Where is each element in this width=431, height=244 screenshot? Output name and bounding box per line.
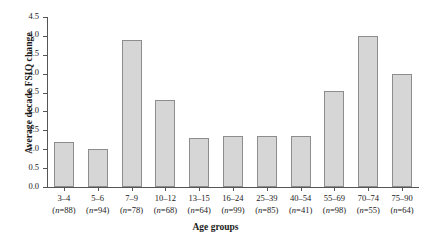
bar[interactable] — [122, 40, 142, 187]
bar-slot — [81, 17, 115, 187]
category-range: 13–15 — [182, 192, 216, 204]
x-axis-category-label: 5–6(n=94) — [81, 192, 115, 216]
x-tick-mark — [199, 187, 200, 191]
bar[interactable] — [291, 136, 311, 187]
category-sample-size: (n=99) — [216, 204, 250, 216]
x-axis-category-label: 10–12(n=68) — [148, 192, 182, 216]
bar[interactable] — [392, 74, 412, 187]
x-tick-mark — [233, 187, 234, 191]
y-tick: 4.5 — [3, 17, 47, 18]
x-axis-category-label: 75–90(n=64) — [385, 192, 419, 216]
category-range: 70–74 — [351, 192, 385, 204]
x-axis-category-label: 16–24(n=99) — [216, 192, 250, 216]
y-tick-label: 1.5 — [28, 124, 39, 134]
bar-slot — [182, 17, 216, 187]
y-tick: 2.5 — [3, 93, 47, 94]
y-tick: 1.0 — [3, 149, 47, 150]
bar-slot — [115, 17, 149, 187]
y-tick-label: 4.0 — [28, 29, 39, 39]
y-tick-label: 2.5 — [28, 86, 39, 96]
bar[interactable] — [155, 100, 175, 187]
x-axis-category-label: 13–15(n=64) — [182, 192, 216, 216]
bar-slot — [385, 17, 419, 187]
x-axis-category-label: 55–69(n=98) — [318, 192, 352, 216]
y-tick-label: 0.0 — [28, 181, 39, 191]
x-tick-mark — [368, 187, 369, 191]
category-sample-size: (n=55) — [351, 204, 385, 216]
bar[interactable] — [189, 138, 209, 187]
x-tick-mark — [267, 187, 268, 191]
category-range: 5–6 — [81, 192, 115, 204]
y-tick-label: 3.0 — [28, 67, 39, 77]
plot-area: 0.00.51.01.52.02.53.03.54.04.5 — [47, 17, 419, 187]
category-sample-size: (n=78) — [115, 204, 149, 216]
category-range: 75–90 — [385, 192, 419, 204]
x-axis-category-label: 25–39(n=85) — [250, 192, 284, 216]
x-tick-mark — [98, 187, 99, 191]
bar-slot — [318, 17, 352, 187]
x-tick-mark — [402, 187, 403, 191]
y-tick: 3.5 — [3, 55, 47, 56]
category-sample-size: (n=64) — [182, 204, 216, 216]
bar[interactable] — [257, 136, 277, 187]
bar[interactable] — [54, 142, 74, 187]
category-sample-size: (n=41) — [284, 204, 318, 216]
x-axis-category-label: 70–74(n=55) — [351, 192, 385, 216]
x-tick-mark — [334, 187, 335, 191]
x-axis-category-label: 40–54(n=41) — [284, 192, 318, 216]
category-range: 25–39 — [250, 192, 284, 204]
bar-chart-figure: Average decade FSIQ change 0.00.51.01.52… — [0, 0, 431, 244]
bar-slot — [148, 17, 182, 187]
bar[interactable] — [88, 149, 108, 187]
x-tick-mark — [64, 187, 65, 191]
x-tick-mark — [301, 187, 302, 191]
category-range: 7–9 — [115, 192, 149, 204]
y-tick-label: 1.0 — [28, 143, 39, 153]
y-tick-mark — [43, 187, 47, 188]
bar-slot — [250, 17, 284, 187]
y-tick-label: 3.5 — [28, 48, 39, 58]
y-tick: 0.0 — [3, 187, 47, 188]
x-axis-title: Age groups — [0, 222, 431, 232]
category-range: 16–24 — [216, 192, 250, 204]
y-tick: 0.5 — [3, 168, 47, 169]
category-sample-size: (n=64) — [385, 204, 419, 216]
category-range: 10–12 — [148, 192, 182, 204]
category-range: 40–54 — [284, 192, 318, 204]
y-tick: 1.5 — [3, 130, 47, 131]
bar-slot — [284, 17, 318, 187]
bar-series — [47, 17, 419, 187]
bar[interactable] — [223, 136, 243, 187]
y-tick: 2.0 — [3, 111, 47, 112]
category-range: 3–4 — [47, 192, 81, 204]
category-sample-size: (n=94) — [81, 204, 115, 216]
y-tick: 3.0 — [3, 74, 47, 75]
category-sample-size: (n=68) — [148, 204, 182, 216]
category-sample-size: (n=88) — [47, 204, 81, 216]
x-tick-mark — [132, 187, 133, 191]
bar-slot — [216, 17, 250, 187]
y-tick-label: 0.5 — [28, 162, 39, 172]
y-tick-label: 4.5 — [28, 11, 39, 21]
bar[interactable] — [358, 36, 378, 187]
x-tick-mark — [165, 187, 166, 191]
bar-slot — [47, 17, 81, 187]
x-axis-category-label: 7–9(n=78) — [115, 192, 149, 216]
bar-slot — [351, 17, 385, 187]
x-axis-category-label: 3–4(n=88) — [47, 192, 81, 216]
bar[interactable] — [324, 91, 344, 187]
category-sample-size: (n=85) — [250, 204, 284, 216]
category-sample-size: (n=98) — [318, 204, 352, 216]
category-range: 55–69 — [318, 192, 352, 204]
y-tick: 4.0 — [3, 36, 47, 37]
y-tick-label: 2.0 — [28, 105, 39, 115]
